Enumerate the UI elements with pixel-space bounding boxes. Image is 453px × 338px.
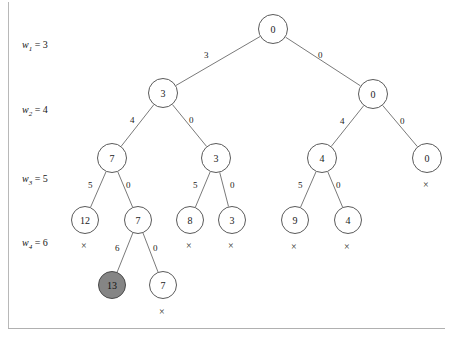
tree-node[interactable]: 0	[358, 79, 388, 109]
tree-node[interactable]: 3	[201, 143, 231, 173]
level-weight-subscript: 3	[29, 179, 33, 187]
tree-node-label: 0	[271, 24, 276, 35]
tree-node[interactable]: 7	[149, 271, 177, 299]
level-weight-label: w3 = 5	[22, 173, 48, 187]
tree-node[interactable]: 0	[258, 14, 288, 44]
tree-node[interactable]: 7	[124, 206, 152, 234]
level-weight-label: w1 = 3	[22, 39, 48, 53]
pruned-cross-icon: ×	[159, 307, 165, 317]
tree-edges-layer	[0, 0, 453, 338]
edge-weight-label: 0	[400, 116, 405, 126]
tree-edge	[176, 37, 260, 86]
level-weight-subscript: 4	[29, 243, 33, 251]
tree-edge	[286, 37, 361, 86]
tree-node-label: 4	[346, 215, 351, 226]
edge-weight-label: 6	[115, 243, 120, 253]
tree-node-label: 7	[110, 153, 115, 164]
tree-node-label: 0	[425, 153, 430, 164]
level-weight-subscript: 1	[29, 45, 33, 53]
tree-diagram-figure: 03073401278394137 30404050505060 ×××××××…	[0, 0, 453, 338]
tree-node-label: 3	[214, 153, 219, 164]
edge-weight-label: 0	[230, 180, 235, 190]
edge-weight-label: 5	[298, 180, 303, 190]
tree-node[interactable]: 12	[71, 206, 99, 234]
pruned-cross-icon: ×	[344, 242, 350, 252]
level-weight-symbol: w	[22, 237, 29, 248]
edge-weight-label: 0	[318, 50, 323, 60]
level-weight-equals: =	[35, 237, 41, 248]
tree-edge	[383, 105, 418, 146]
tree-node[interactable]: 8	[176, 206, 204, 234]
tree-node-label: 8	[188, 215, 193, 226]
tree-node-label: 9	[293, 215, 298, 226]
tree-node[interactable]: 7	[97, 143, 127, 173]
tree-edge	[172, 105, 206, 147]
edge-weight-label: 4	[130, 115, 135, 125]
level-weight-symbol: w	[22, 39, 29, 50]
tree-node[interactable]: 0	[412, 143, 442, 173]
edge-weight-label: 0	[153, 243, 158, 253]
tree-node[interactable]: 3	[148, 78, 178, 108]
tree-node-label: 13	[107, 280, 117, 291]
tree-edge	[331, 106, 363, 147]
level-weight-label: w2 = 4	[22, 104, 48, 118]
tree-node-label: 7	[136, 215, 141, 226]
pruned-cross-icon: ×	[423, 180, 429, 190]
edge-weight-label: 5	[88, 180, 93, 190]
edge-weight-label: 0	[126, 180, 131, 190]
edge-weight-label: 5	[193, 180, 198, 190]
tree-edge	[121, 105, 153, 146]
pruned-cross-icon: ×	[186, 241, 192, 251]
tree-node-label: 7	[161, 280, 166, 291]
level-weight-equals: =	[35, 104, 41, 115]
level-weight-subscript: 2	[29, 110, 33, 118]
tree-node[interactable]: 4	[307, 143, 337, 173]
level-weight-equals: =	[35, 173, 41, 184]
level-weight-value: 6	[43, 237, 48, 248]
level-weight-value: 5	[43, 173, 48, 184]
tree-node[interactable]: 3	[218, 206, 246, 234]
tree-node-label: 12	[80, 215, 90, 226]
edge-weight-label: 4	[340, 116, 345, 126]
tree-node[interactable]: 9	[281, 206, 309, 234]
level-weight-symbol: w	[22, 104, 29, 115]
pruned-cross-icon: ×	[228, 241, 234, 251]
tree-node-label: 3	[230, 215, 235, 226]
tree-node-label: 4	[320, 153, 325, 164]
level-weight-value: 4	[43, 104, 48, 115]
tree-node[interactable]: 4	[334, 206, 362, 234]
tree-node[interactable]: 13	[98, 271, 126, 299]
tree-node-label: 0	[371, 89, 376, 100]
tree-edge	[220, 173, 229, 207]
level-weight-label: w4 = 6	[22, 237, 48, 251]
edge-weight-label: 0	[336, 180, 341, 190]
pruned-cross-icon: ×	[81, 241, 87, 251]
edge-weight-label: 3	[204, 50, 209, 60]
edge-weight-label: 0	[189, 115, 194, 125]
level-weight-equals: =	[35, 39, 41, 50]
pruned-cross-icon: ×	[291, 242, 297, 252]
tree-node-label: 3	[161, 88, 166, 99]
level-weight-symbol: w	[22, 173, 29, 184]
level-weight-value: 3	[43, 39, 48, 50]
